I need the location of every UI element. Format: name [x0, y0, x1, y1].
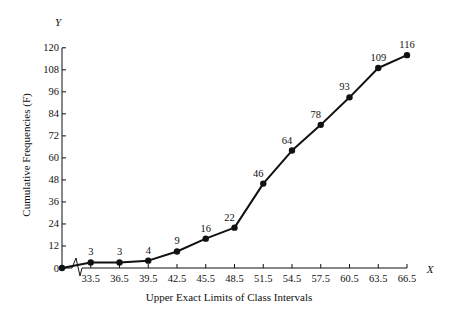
data-point	[318, 122, 324, 128]
x-tick-label: 48.5	[225, 273, 243, 284]
data-point	[346, 94, 352, 100]
y-axis-letter: Y	[55, 16, 63, 28]
x-tick-label: 66.5	[398, 273, 416, 284]
data-point-label: 16	[201, 223, 212, 234]
y-tick-label: 60	[49, 152, 60, 163]
data-point-label: 22	[224, 212, 235, 223]
data-point	[375, 65, 381, 71]
x-tick-label: 45.5	[197, 273, 215, 284]
data-point-label: 109	[370, 52, 386, 63]
x-tick-label: 36.5	[110, 273, 128, 284]
data-point	[231, 224, 237, 230]
y-tick-label: 120	[43, 42, 59, 53]
x-tick-label: 54.5	[283, 273, 301, 284]
data-point	[88, 259, 94, 265]
y-tick-label: 12	[49, 240, 60, 251]
x-tick-label: 42.5	[168, 273, 186, 284]
y-tick-label: 84	[49, 108, 60, 119]
data-point	[260, 180, 266, 186]
x-tick-label: 63.5	[369, 273, 387, 284]
data-point	[289, 147, 295, 153]
y-tick-label: 48	[49, 174, 60, 185]
x-tick-label: 60.5	[340, 273, 358, 284]
y-axis-title: Cumulative Frequencies (F)	[20, 93, 33, 217]
y-tick-label: 36	[49, 196, 60, 207]
data-point-label: 116	[399, 39, 414, 50]
data-series: 3349162246647893109116	[59, 39, 415, 271]
x-axis-letter: X	[426, 263, 435, 275]
x-tick-label: 33.5	[82, 273, 100, 284]
y-tick-label: 96	[49, 86, 60, 97]
data-point-label: 46	[253, 168, 264, 179]
ogive-chart: 01224364860728496108120 33.536.539.542.5…	[0, 0, 459, 316]
y-tick-label: 108	[43, 64, 59, 75]
data-point-label: 3	[88, 246, 93, 257]
x-tick-label: 39.5	[139, 273, 157, 284]
axis-break-icon	[72, 258, 82, 276]
data-point-label: 93	[339, 81, 350, 92]
data-point	[203, 235, 209, 241]
data-point	[404, 52, 410, 58]
data-point-label: 3	[117, 246, 122, 257]
x-tick-label: 57.5	[312, 273, 330, 284]
x-axis-title: Upper Exact Limits of Class Intervals	[146, 291, 313, 303]
x-tick-label: 51.5	[254, 273, 272, 284]
data-point	[59, 265, 65, 271]
data-point-label: 9	[174, 235, 179, 246]
data-point	[145, 257, 151, 263]
data-point-label: 64	[282, 135, 293, 146]
ogive-line	[62, 55, 407, 268]
y-axis: 01224364860728496108120	[43, 42, 66, 273]
data-point-label: 78	[311, 109, 322, 120]
y-tick-label: 24	[49, 218, 60, 229]
data-point	[116, 259, 122, 265]
data-point-label: 4	[146, 245, 152, 256]
y-tick-label: 0	[54, 263, 59, 274]
data-point	[174, 248, 180, 254]
y-tick-label: 72	[49, 130, 60, 141]
